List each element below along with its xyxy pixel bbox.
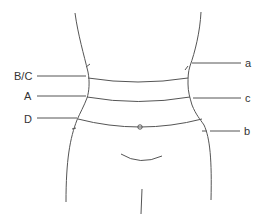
label-a-upper: A xyxy=(24,90,32,102)
label-bc: B/C xyxy=(14,70,32,82)
center-line xyxy=(141,189,142,214)
band-bc xyxy=(88,78,188,82)
label-a-lower: a xyxy=(245,57,252,69)
left-body-contour xyxy=(66,13,89,202)
label-b-lower: b xyxy=(244,125,250,137)
band-d xyxy=(78,119,202,127)
left-hip-notch xyxy=(72,128,76,129)
label-c-lower: c xyxy=(245,92,251,104)
lower-abdomen-curve xyxy=(121,154,162,161)
band-a xyxy=(87,97,190,102)
label-d: D xyxy=(24,113,32,125)
torso-diagram: B/C A D a c b xyxy=(0,0,262,224)
right-waist-notch xyxy=(185,66,188,70)
right-body-contour xyxy=(188,12,211,200)
